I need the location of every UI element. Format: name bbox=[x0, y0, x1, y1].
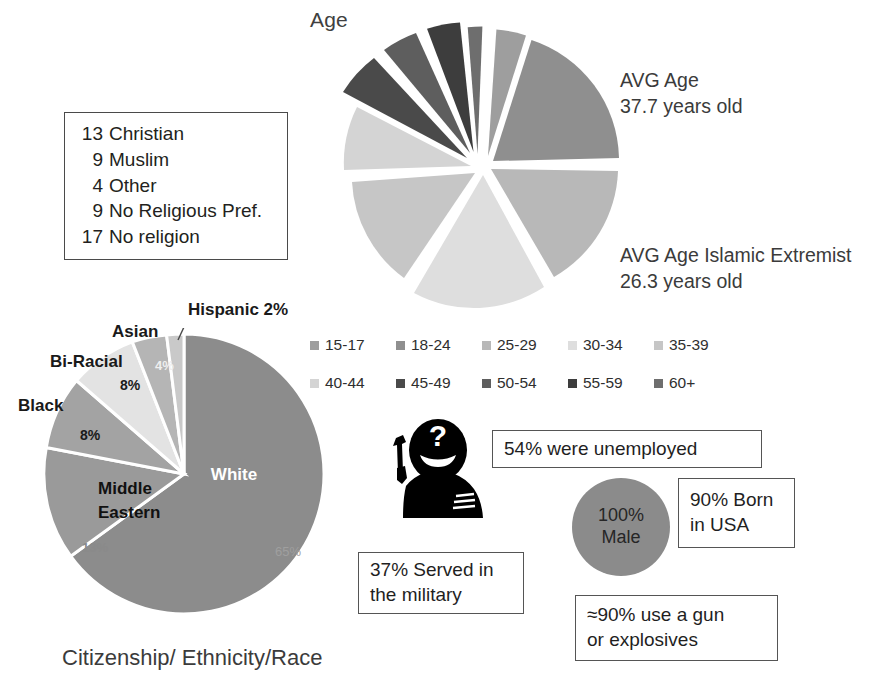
stat-box-born-usa: 90% Born in USA bbox=[678, 478, 795, 548]
age-chart-legend: 15-17 18-24 25-29 30-34 35-39 40-44 bbox=[310, 333, 740, 409]
avg-age-extremist-value: 26.3 years old bbox=[620, 269, 852, 295]
legend-item-18-24: 18-24 bbox=[396, 336, 482, 354]
legend-label: 30-34 bbox=[583, 336, 623, 354]
legend-swatch-icon bbox=[396, 341, 405, 350]
legend-item-45-49: 45-49 bbox=[396, 374, 482, 392]
age-pie-slices bbox=[343, 23, 619, 309]
rifle-grip bbox=[397, 466, 407, 484]
eth-label-black: Black bbox=[18, 396, 63, 416]
eth-inline-label-middle-eastern-1: Middle bbox=[98, 479, 152, 498]
avg-age-label: AVG Age bbox=[620, 68, 743, 94]
religion-count: 13 bbox=[77, 121, 103, 147]
legend-swatch-icon bbox=[482, 341, 491, 350]
legend-swatch-icon bbox=[482, 379, 491, 388]
legend-swatch-icon bbox=[568, 341, 577, 350]
eth-inline-percent-black: 8% bbox=[80, 427, 101, 443]
legend-swatch-icon bbox=[396, 379, 405, 388]
religion-count: 17 bbox=[77, 224, 103, 250]
religion-tally-box: 13 Christian 9 Muslim 4 Other 9 No Relig… bbox=[64, 112, 288, 260]
eth-label-hispanic: Hispanic 2% bbox=[188, 300, 288, 320]
infographic-canvas: Age bbox=[0, 0, 883, 695]
age-pie-chart bbox=[330, 10, 630, 310]
eth-inline-percent-biracial: 8% bbox=[120, 377, 141, 393]
legend-item-25-29: 25-29 bbox=[482, 336, 568, 354]
religion-row: 17 No religion bbox=[77, 224, 277, 250]
religion-row: 9 No Religious Pref. bbox=[77, 198, 277, 224]
legend-label: 18-24 bbox=[411, 336, 451, 354]
legend-label: 25-29 bbox=[497, 336, 537, 354]
religion-label: Christian bbox=[109, 121, 184, 147]
religion-row: 4 Other bbox=[77, 173, 277, 199]
legend-label: 35-39 bbox=[669, 336, 709, 354]
ethnicity-pie-slices bbox=[44, 334, 324, 614]
question-mark-icon: ? bbox=[429, 419, 447, 452]
religion-label: Other bbox=[109, 173, 157, 199]
legend-label: 50-54 bbox=[497, 374, 537, 392]
stat-box-unemployed: 54% were unemployed bbox=[492, 430, 762, 468]
legend-row-1: 15-17 18-24 25-29 30-34 35-39 bbox=[310, 333, 740, 357]
avg-age-callout: AVG Age 37.7 years old bbox=[620, 68, 743, 119]
legend-item-35-39: 35-39 bbox=[654, 336, 740, 354]
masked-gunman-icon: ? bbox=[378, 416, 490, 538]
stat-text-line1: ≈90% use a gun bbox=[587, 603, 766, 628]
legend-label: 60+ bbox=[669, 374, 695, 392]
eth-inline-percent-asian: 4% bbox=[155, 358, 174, 373]
legend-swatch-icon bbox=[654, 341, 663, 350]
legend-label: 40-44 bbox=[325, 374, 365, 392]
religion-count: 4 bbox=[77, 173, 103, 199]
stat-text-line2: in USA bbox=[690, 513, 783, 538]
eth-inline-label-white: White bbox=[211, 465, 257, 484]
avg-age-extremist-callout: AVG Age Islamic Extremist 26.3 years old bbox=[620, 243, 852, 294]
male-percentage-circle: 100% Male bbox=[572, 478, 670, 576]
legend-swatch-icon bbox=[568, 379, 577, 388]
legend-label: 15-17 bbox=[325, 336, 365, 354]
religion-label: No religion bbox=[109, 224, 200, 250]
legend-label: 45-49 bbox=[411, 374, 451, 392]
stat-text-line1: 90% Born bbox=[690, 488, 783, 513]
legend-item-60plus: 60+ bbox=[654, 374, 740, 392]
legend-swatch-icon bbox=[654, 379, 663, 388]
eth-inline-percent-middle-eastern: 13% bbox=[82, 540, 108, 555]
eth-inline-label-middle-eastern-2: Eastern bbox=[98, 503, 160, 522]
eth-label-biracial: Bi-Racial bbox=[50, 352, 123, 372]
male-percent-value: 100% bbox=[598, 505, 644, 527]
stat-text-line2: or explosives bbox=[587, 628, 766, 653]
legend-item-50-54: 50-54 bbox=[482, 374, 568, 392]
stat-text-line2: the military bbox=[370, 583, 512, 608]
religion-label: No Religious Pref. bbox=[109, 198, 262, 224]
religion-row: 13 Christian bbox=[77, 121, 277, 147]
eth-inline-percent-white: 65% bbox=[275, 544, 301, 559]
eth-label-asian: Asian bbox=[112, 322, 158, 342]
ethnicity-chart-caption: Citizenship/ Ethnicity/Race bbox=[62, 645, 322, 671]
religion-count: 9 bbox=[77, 198, 103, 224]
stat-text: 54% were unemployed bbox=[504, 437, 750, 462]
stat-box-military: 37% Served in the military bbox=[358, 552, 524, 614]
legend-row-2: 40-44 45-49 50-54 55-59 60+ bbox=[310, 371, 740, 395]
stat-text-line1: 37% Served in bbox=[370, 558, 512, 583]
avg-age-value: 37.7 years old bbox=[620, 94, 743, 120]
legend-label: 55-59 bbox=[583, 374, 623, 392]
masked-gunman-svg: ? bbox=[378, 416, 490, 538]
age-pie-svg bbox=[330, 10, 630, 310]
religion-count: 9 bbox=[77, 147, 103, 173]
religion-label: Muslim bbox=[109, 147, 169, 173]
religion-row: 9 Muslim bbox=[77, 147, 277, 173]
male-percent-label: Male bbox=[601, 527, 640, 549]
legend-item-30-34: 30-34 bbox=[568, 336, 654, 354]
stat-box-weapon: ≈90% use a gun or explosives bbox=[575, 595, 778, 661]
avg-age-extremist-label: AVG Age Islamic Extremist bbox=[620, 243, 852, 269]
legend-item-55-59: 55-59 bbox=[568, 374, 654, 392]
